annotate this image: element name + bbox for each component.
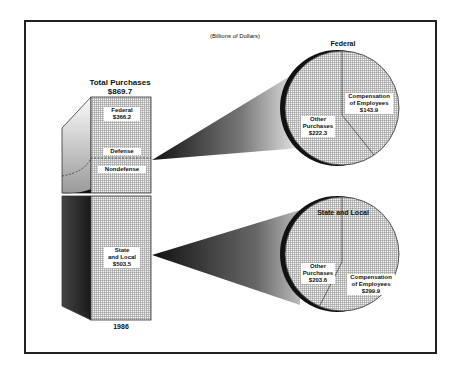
- state-comp-label: Compensation of Employees $299.9: [347, 274, 395, 295]
- federal-value: $366.2: [105, 114, 139, 121]
- fed-comp-l1: Compensation: [346, 93, 392, 100]
- state-cone: [152, 210, 300, 305]
- fed-comp-value: $143.9: [346, 107, 392, 114]
- chart-subtitle: (Billions of Dollars): [195, 33, 275, 40]
- federal-box-side: [62, 97, 91, 193]
- st-other-l1: Other: [302, 263, 334, 270]
- federal-cone: [152, 70, 300, 160]
- defense-label: Defense: [103, 148, 141, 155]
- total-title: Total Purchases $869.7: [70, 78, 170, 96]
- fed-other-l2: Purchases: [302, 123, 334, 130]
- total-title-text: Total Purchases: [70, 78, 170, 87]
- st-comp-l2: of Employees: [348, 281, 394, 288]
- federal-bar-label: Federal $366.2: [104, 107, 140, 121]
- fed-other-value: $222.3: [302, 130, 334, 137]
- st-comp-value: $299.9: [348, 288, 394, 295]
- federal-other-label: Other Purchases $222.3: [301, 116, 335, 137]
- nondefense-label: Nondefense: [98, 166, 146, 173]
- federal-pie-title: Federal: [318, 40, 368, 48]
- chart-graphics: [0, 0, 462, 372]
- st-other-value: $203.6: [302, 277, 334, 284]
- state-value: $503.5: [105, 261, 139, 268]
- state-box-side: [62, 196, 91, 320]
- st-comp-l1: Compensation: [348, 274, 394, 281]
- state-line1: State: [105, 247, 139, 254]
- state-local-bar-label: State and Local $503.5: [104, 247, 140, 268]
- st-other-l2: Purchases: [302, 270, 334, 277]
- state-pie-title: State and Local: [300, 209, 386, 217]
- total-value: $869.7: [70, 87, 170, 96]
- year-label: 1986: [98, 323, 144, 331]
- fed-comp-l2: of Employees: [346, 100, 392, 107]
- state-line2: and Local: [105, 254, 139, 261]
- state-other-label: Other Purchases $203.6: [301, 263, 335, 284]
- federal-comp-label: Compensation of Employees $143.9: [345, 93, 393, 114]
- fed-other-l1: Other: [302, 116, 334, 123]
- federal-label: Federal: [105, 107, 139, 114]
